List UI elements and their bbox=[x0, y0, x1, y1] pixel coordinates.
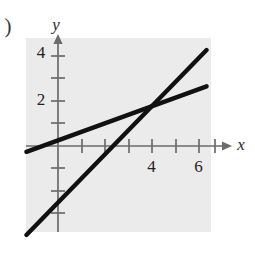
x-axis-arrowhead bbox=[222, 141, 232, 150]
x-axis-title: x bbox=[236, 135, 245, 154]
y-tick-label-2: 2 bbox=[37, 90, 46, 109]
x-tick-label-4: 4 bbox=[147, 157, 156, 176]
plot-background bbox=[26, 38, 211, 232]
figure-root: ) bbox=[0, 0, 255, 253]
x-tick-label-6: 6 bbox=[194, 157, 203, 176]
y-axis-title: y bbox=[50, 15, 60, 34]
y-tick-label-4: 4 bbox=[37, 43, 46, 62]
coordinate-plane-plot: 4 2 4 6 y x bbox=[0, 0, 255, 253]
